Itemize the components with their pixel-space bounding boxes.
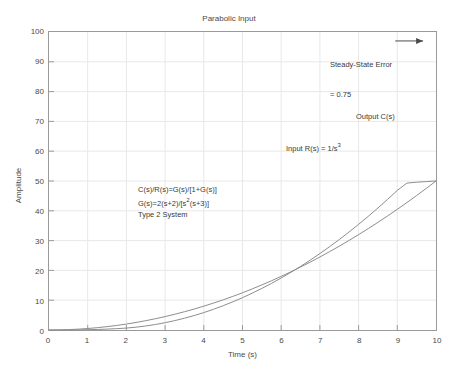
x-axis-title: Time (s) bbox=[48, 350, 437, 359]
input-label-exponent: 3 bbox=[337, 142, 340, 148]
x-tick-3: 3 bbox=[150, 336, 180, 345]
annotation-input-label: Input R(s) = 1/s3 bbox=[286, 140, 341, 154]
y-tick-80: 80 bbox=[14, 87, 44, 96]
steady-state-error-line-1: Steady-State Error bbox=[330, 60, 392, 70]
annotation-output-label: Output C(s) bbox=[356, 112, 395, 122]
y-tick-100: 100 bbox=[14, 27, 44, 36]
equation-line-2-prefix: G(s)=2(s+2)/[s bbox=[138, 199, 186, 208]
x-tick-2: 2 bbox=[111, 336, 141, 345]
equation-line-1: C(s)/R(s)=G(s)/[1+G(s)] bbox=[138, 184, 217, 195]
steady-state-error-line-2: = 0.75 bbox=[330, 90, 392, 100]
x-tick-6: 6 bbox=[266, 336, 296, 345]
y-axis-title: Amplitude bbox=[14, 146, 23, 226]
x-tick-4: 4 bbox=[189, 336, 219, 345]
y-tick-70: 70 bbox=[14, 117, 44, 126]
y-tick-0: 0 bbox=[14, 327, 44, 336]
x-tick-10: 10 bbox=[422, 336, 452, 345]
y-tick-90: 90 bbox=[14, 57, 44, 66]
y-tick-20: 20 bbox=[14, 267, 44, 276]
equation-block: C(s)/R(s)=G(s)/[1+G(s)] G(s)=2(s+2)/[s2(… bbox=[138, 184, 217, 220]
x-tick-1: 1 bbox=[72, 336, 102, 345]
annotation-steady-state-error: Steady-State Error = 0.75 bbox=[330, 40, 392, 120]
x-tick-8: 8 bbox=[344, 336, 374, 345]
equation-line-2-suffix: (s+3)] bbox=[190, 199, 209, 208]
y-tick-10: 10 bbox=[14, 297, 44, 306]
x-tick-7: 7 bbox=[305, 336, 335, 345]
input-label-text: Input R(s) = 1/s bbox=[286, 144, 337, 153]
chart-figure: Parabolic Input Unity Feedback bbox=[0, 0, 458, 373]
x-tick-5: 5 bbox=[228, 336, 258, 345]
x-tick-0: 0 bbox=[33, 336, 63, 345]
y-tick-30: 30 bbox=[14, 237, 44, 246]
equation-line-2: G(s)=2(s+2)/[s2(s+3)] bbox=[138, 195, 217, 209]
equation-line-3: Type 2 System bbox=[138, 209, 217, 220]
x-tick-9: 9 bbox=[383, 336, 413, 345]
